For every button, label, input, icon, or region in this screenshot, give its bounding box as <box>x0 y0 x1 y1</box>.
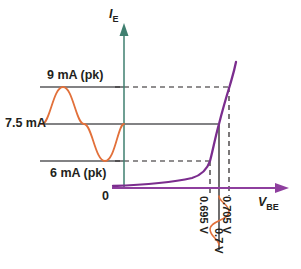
label-0p695v: 0.695 V <box>198 196 209 234</box>
y-axis-label-sub: E <box>112 14 118 24</box>
x-axis-label-sub: BE <box>266 202 279 212</box>
x-axis-label: VBE <box>258 196 279 212</box>
transistor-characteristic-figure: 9 mA (pk) 7.5 mA 6 mA (pk) 0 IE VBE 0.69… <box>0 0 301 269</box>
label-9ma: 9 mA (pk) <box>47 69 104 82</box>
label-origin: 0 <box>102 190 109 203</box>
x-axis-arrowhead <box>275 183 289 193</box>
y-axis-label: IE <box>109 8 119 24</box>
label-7p5ma: 7.5 mA <box>5 117 46 130</box>
y-axis-arrowhead <box>120 23 129 36</box>
label-6ma: 6 mA (pk) <box>50 167 107 180</box>
label-0p7v: 0.7 V <box>213 228 224 254</box>
figure-canvas <box>0 0 301 269</box>
